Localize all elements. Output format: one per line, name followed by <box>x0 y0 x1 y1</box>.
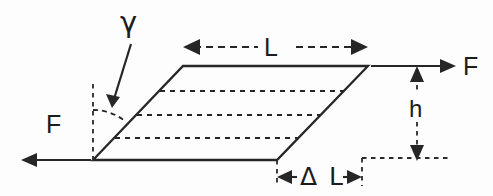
length-dimension-arrowhead-right <box>351 39 368 55</box>
gamma-pointer-line <box>114 44 131 99</box>
force-label-left: F <box>46 112 61 137</box>
height-dimension-group <box>362 66 452 161</box>
shear-angle-label: γ <box>120 8 137 37</box>
height-dimension-arrowhead-top <box>410 66 424 82</box>
displacement-label: Δ L <box>300 164 345 189</box>
shear-angle-arc-group <box>93 110 126 122</box>
force-arrow-right-head <box>440 59 456 73</box>
force-arrow-right-group <box>371 59 456 73</box>
shear-deformation-figure: γ L F F h Δ L <box>0 0 493 196</box>
displacement-arrowhead-right <box>347 170 362 184</box>
length-label: L <box>264 35 278 60</box>
gamma-pointer-group <box>106 44 131 108</box>
internal-shear-planes <box>115 91 344 138</box>
height-label: h <box>409 97 422 121</box>
length-dimension-arrowhead-left <box>183 39 200 55</box>
force-label-right: F <box>463 54 478 79</box>
deformed-block-outline <box>93 66 368 160</box>
gamma-pointer-arrowhead <box>106 94 120 108</box>
force-arrow-left-group <box>21 153 91 167</box>
shear-angle-arc <box>93 110 126 122</box>
parallelogram-shape <box>93 66 368 160</box>
force-arrow-left-head <box>21 153 37 167</box>
displacement-arrowhead-left <box>277 170 292 184</box>
